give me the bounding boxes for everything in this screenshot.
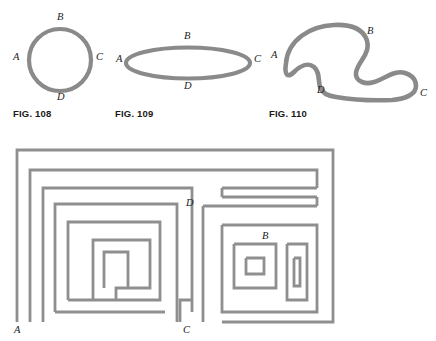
maze-label-A: A [14, 324, 20, 335]
maze-rlobe-b-in [294, 258, 300, 286]
maze-ring3-path [43, 188, 192, 322]
maze-label-D: D [186, 197, 194, 208]
maze-rlobe-a [234, 244, 276, 288]
maze-c-stub [180, 300, 192, 322]
maze-label-C: C [183, 324, 190, 335]
maze-spiral-4 [104, 252, 128, 288]
maze-label-B: B [262, 230, 268, 241]
figure-page: B C D A B C D A B C D A FIG. 108 FIG. 10… [0, 0, 436, 341]
maze-figure-precise [0, 0, 436, 341]
maze-spiral-3 [93, 240, 150, 300]
maze-rlobe-a-in [246, 258, 264, 274]
maze-rlobe-b [287, 244, 307, 300]
